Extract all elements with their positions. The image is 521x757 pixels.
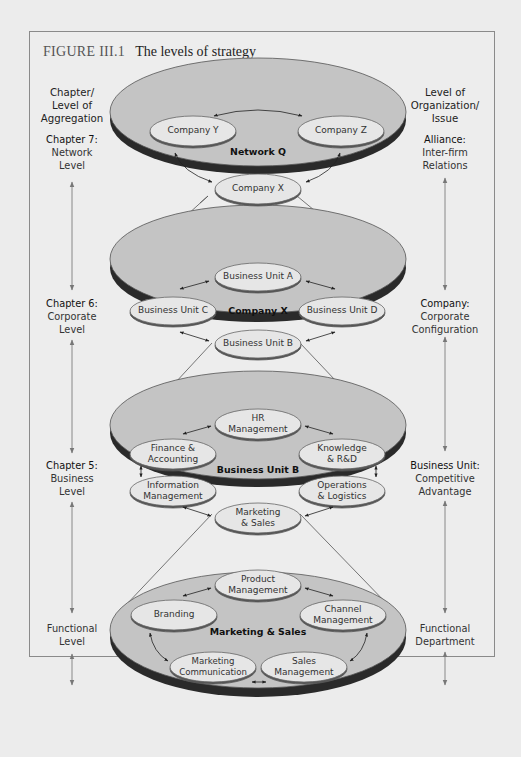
node-product-management: Product Management bbox=[215, 573, 301, 597]
node-branding: Branding bbox=[131, 608, 217, 622]
node-operations-logistics: Operations & Logistics bbox=[299, 479, 385, 503]
node-marketing-sales: Marketing & Sales bbox=[215, 506, 301, 530]
node-company-z: Company Z bbox=[298, 124, 384, 138]
right-level-business-unit: Business Unit: Competitive Advantage bbox=[400, 459, 490, 498]
node-company-y: Company Y bbox=[150, 124, 236, 138]
right-column-header: Level of Organization/ Issue bbox=[405, 86, 485, 125]
left-level-business: Chapter 5: Business Level bbox=[38, 459, 106, 498]
node-company-x: Company X bbox=[215, 182, 301, 196]
node-business-unit-a: Business Unit A bbox=[215, 270, 301, 284]
node-sales-management: Sales Management bbox=[261, 655, 347, 679]
node-marketing-communication: Marketing Communication bbox=[170, 655, 256, 679]
node-hr-management: HR Management bbox=[215, 412, 301, 436]
right-level-functional: Functional Department bbox=[405, 622, 485, 648]
disk-label-marketing-sales: Marketing & Sales bbox=[198, 626, 318, 637]
node-information-management: Information Management bbox=[130, 479, 216, 503]
left-column-header: Chapter/ Level of Aggregation bbox=[38, 86, 106, 125]
left-level-functional: Functional Level bbox=[38, 622, 106, 648]
node-knowledge-rd: Knowledge & R&D bbox=[299, 442, 385, 466]
right-level-company: Company: Corporate Configuration bbox=[405, 297, 485, 336]
disk-label-network-q: Network Q bbox=[208, 146, 308, 157]
node-channel-management: Channel Management bbox=[300, 603, 386, 627]
node-finance-accounting: Finance & Accounting bbox=[130, 442, 216, 466]
left-level-network: Chapter 7: Network Level bbox=[38, 133, 106, 172]
node-business-unit-c: Business Unit C bbox=[130, 304, 216, 318]
node-business-unit-b: Business Unit B bbox=[215, 337, 301, 351]
right-level-alliance: Alliance: Inter-firm Relations bbox=[405, 133, 485, 172]
disk-label-company-x: Company X bbox=[208, 305, 308, 316]
node-business-unit-d: Business Unit D bbox=[299, 304, 385, 318]
left-level-corporate: Chapter 6: Corporate Level bbox=[38, 297, 106, 336]
